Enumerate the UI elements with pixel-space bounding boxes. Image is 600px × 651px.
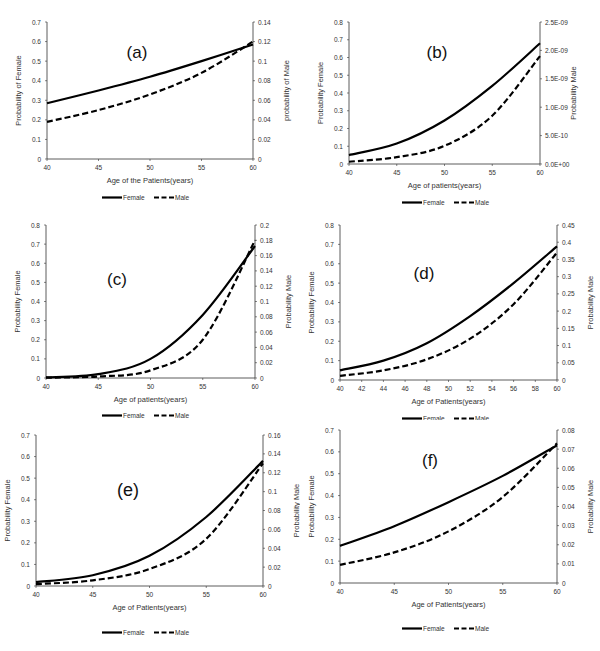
right-tick-label: 0.08 [268,507,281,514]
left-tick-label: 0.4 [325,299,334,306]
chart-panel-f: 00.10.20.30.40.50.60.700.010.020.030.040… [300,420,600,651]
x-tick-label: 46 [401,385,409,392]
right-tick-label: 0.05 [562,484,575,491]
right-tick-label: 0.14 [260,267,273,274]
right-tick-label: 0.14 [268,450,281,457]
right-y-axis-label: probability of Male [282,60,291,121]
left-tick-label: 0.6 [21,453,30,460]
x-tick-label: 40 [345,169,353,176]
legend-label-female: Female [123,629,145,636]
right-tick-label: 0.0E+00 [545,161,570,168]
right-tick-label: 0.08 [260,313,273,320]
left-tick-label: 0.5 [21,475,30,482]
panel-title: (f) [422,451,438,470]
x-tick-label: 50 [146,591,154,598]
left-tick-label: 0.5 [325,280,334,287]
legend-label-male: Male [175,629,189,636]
x-tick-label: 50 [445,588,453,595]
left-tick-label: 0 [37,156,41,163]
left-tick-label: 0.6 [334,54,343,61]
right-tick-label: 0.02 [268,564,281,571]
left-tick-label: 0.3 [325,318,334,325]
right-tick-label: 0.02 [562,541,575,548]
right-tick-label: 0.02 [260,359,273,366]
chart-svg-f: 00.10.20.30.40.50.60.700.010.020.030.040… [300,420,600,651]
right-tick-label: 0.08 [562,427,575,434]
x-tick-label: 40 [336,588,344,595]
series-line-male [340,253,557,376]
x-tick-label: 40 [43,164,51,171]
left-tick-label: 0.1 [325,357,334,364]
left-tick-label: 0.1 [334,143,343,150]
right-tick-label: 0.2 [260,222,269,229]
right-tick-label: 0.1 [260,298,269,305]
right-tick-label: 0.18 [260,237,273,244]
x-tick-label: 45 [393,169,401,176]
right-tick-label: 0.12 [260,283,273,290]
series-line-female [46,246,255,377]
left-tick-label: 0 [36,375,40,382]
right-tick-label: 0.3 [562,273,571,280]
left-tick-label: 0.2 [32,116,41,123]
x-tick-label: 40 [32,591,40,598]
x-tick-label: 45 [95,383,103,390]
series-line-male [46,240,255,377]
chart-panel-c: 00.10.20.30.40.50.60.70.800.020.040.060.… [0,205,300,420]
right-tick-label: 0.06 [260,329,273,336]
x-tick-label: 55 [199,383,207,390]
legend: FemaleMale [102,194,189,201]
left-tick-label: 0 [26,583,30,590]
series-line-female [36,461,263,582]
right-tick-label: 0.04 [268,545,281,552]
x-tick-label: 56 [510,385,518,392]
left-y-axis-label: Probability Female [307,475,316,537]
right-tick-label: 0.1 [562,342,571,349]
panel-title: (e) [117,480,139,500]
left-tick-label: 0.3 [32,97,41,104]
panel-title: (c) [107,270,127,289]
x-axis-label: Age of patients(years) [408,181,482,190]
left-tick-label: 0.3 [31,317,40,324]
x-tick-label: 44 [380,385,388,392]
x-tick-label: 45 [95,164,103,171]
chart-svg-b: 00.10.20.30.40.50.60.70.80.0E+005.0E-101… [300,0,600,205]
right-tick-label: 2.5E-09 [545,19,568,26]
chart-panel-d: 00.10.20.30.40.50.60.70.800.050.10.150.2… [300,205,600,420]
x-axis-label: Age of Patients(years) [411,600,486,609]
left-tick-label: 0.5 [32,58,41,65]
series-line-female [340,246,557,370]
left-tick-label: 0.3 [21,518,30,525]
x-tick-label: 50 [147,383,155,390]
chart-svg-e: 00.10.20.30.40.50.60.700.020.040.060.080… [0,420,300,651]
legend-label-female: Female [423,625,445,632]
panel-title: (d) [414,264,435,283]
x-tick-label: 60 [251,383,259,390]
axes: 00.10.20.30.40.50.60.700.020.040.060.080… [32,19,271,172]
left-tick-label: 0.2 [31,336,40,343]
right-tick-label: 0.05 [562,359,575,366]
right-tick-label: 0 [562,377,566,384]
left-tick-label: 0.2 [325,338,334,345]
right-y-axis-label: Probability Male [292,484,300,537]
axes: 00.10.20.30.40.50.60.700.020.040.060.080… [21,432,281,599]
right-tick-label: 0.14 [258,19,271,26]
left-tick-label: 0.4 [325,492,334,499]
right-tick-label: 0.06 [268,526,281,533]
right-tick-label: 0.07 [562,446,575,453]
right-tick-label: 0.08 [258,77,271,84]
left-tick-label: 0.1 [21,561,30,568]
x-tick-label: 40 [42,383,50,390]
left-tick-label: 0.6 [31,260,40,267]
left-tick-label: 0.7 [32,19,41,26]
left-tick-label: 0.5 [325,470,334,477]
left-tick-label: 0.8 [31,222,40,229]
axes: 00.10.20.30.40.50.60.70.80.0E+005.0E-101… [334,19,570,177]
right-tick-label: 0 [562,580,566,587]
left-y-axis-label: Probability Female [316,62,325,124]
x-tick-label: 52 [467,385,475,392]
right-tick-label: 0 [260,375,264,382]
left-y-axis-label: Probability of Female [14,55,23,125]
left-tick-label: 0.2 [21,539,30,546]
right-tick-label: 0.12 [268,469,281,476]
left-tick-label: 0.7 [325,427,334,434]
